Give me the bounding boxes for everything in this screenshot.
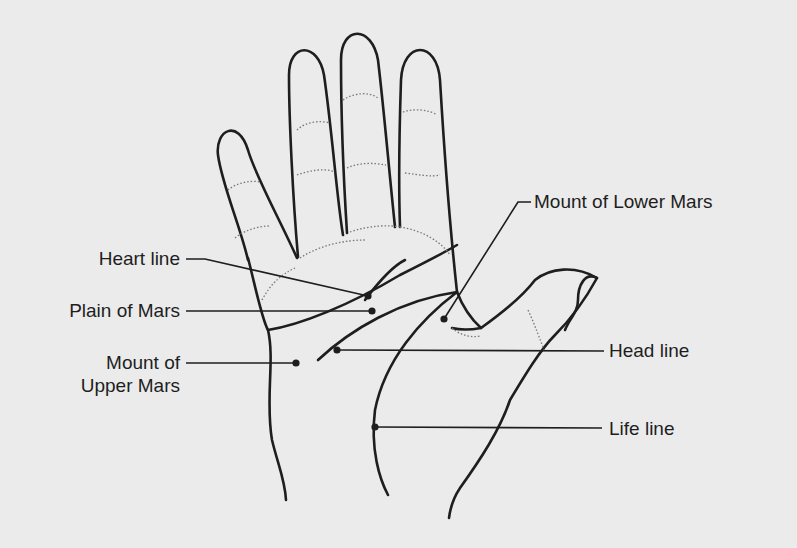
- label-plain-of-mars: Plain of Mars: [69, 300, 180, 322]
- palm-diagram: [0, 0, 797, 548]
- label-mount-upper-mars-line2: Upper Mars: [81, 375, 180, 397]
- thumb-outline: [449, 270, 597, 518]
- label-mount-lower-mars: Mount of Lower Mars: [534, 191, 712, 213]
- label-mount-upper-mars-line1: Mount of: [106, 352, 180, 374]
- label-life-line: Life line: [609, 418, 675, 440]
- palm-left-edge: [248, 258, 286, 500]
- fate-line-fragment: [365, 260, 405, 300]
- ring-finger-outline: [289, 50, 343, 257]
- index-finger-outline: [399, 50, 457, 292]
- little-finger-outline: [218, 131, 297, 260]
- label-heart-line: Heart line: [99, 248, 180, 270]
- label-head-line: Head line: [609, 340, 689, 362]
- middle-finger-outline: [341, 34, 395, 233]
- thumb-crease: [452, 328, 481, 330]
